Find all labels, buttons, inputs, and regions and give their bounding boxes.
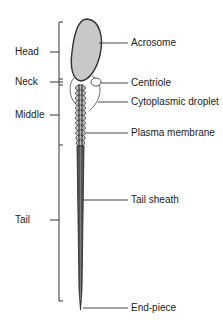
- region-bracket: [50, 22, 63, 301]
- region-label-tail: Tail: [15, 214, 30, 226]
- sperm-diagram: Head Neck Middle Tail Acrosome Centriole…: [0, 0, 223, 332]
- part-label-end-piece: End-piece: [131, 302, 176, 314]
- part-label-cytoplasmic-droplet: Cytoplasmic droplet: [131, 96, 219, 108]
- part-label-tail-sheath: Tail sheath: [131, 194, 179, 206]
- centriole-shape: [91, 78, 101, 86]
- region-label-middle: Middle: [15, 109, 44, 121]
- part-label-plasma-membrane: Plasma membrane: [131, 127, 215, 139]
- region-label-head: Head: [15, 46, 39, 58]
- part-label-centriole: Centriole: [131, 77, 171, 89]
- region-label-neck: Neck: [15, 76, 38, 88]
- midpiece-shape: [75, 85, 85, 146]
- part-label-acrosome: Acrosome: [131, 37, 176, 49]
- head-shape: [71, 19, 101, 81]
- leader-lines: [83, 43, 128, 308]
